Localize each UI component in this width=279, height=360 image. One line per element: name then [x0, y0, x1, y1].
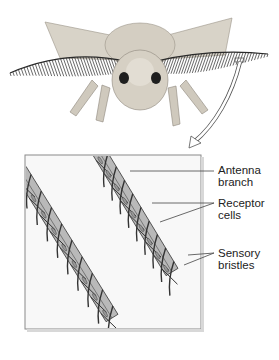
antenna-pinnule [27, 67, 30, 76]
antenna-pinnule [55, 60, 61, 77]
antenna-pinnule [75, 57, 82, 76]
antenna-pinnule [89, 57, 96, 76]
antenna-pinnule [176, 56, 182, 74]
antenna-pinnule [251, 53, 254, 61]
right-leg-outer [180, 80, 208, 114]
antenna-pinnule [83, 57, 90, 76]
antenna-pinnule [91, 57, 97, 75]
right-eye [151, 72, 161, 84]
antenna-pinnule [248, 53, 251, 62]
antenna-pinnule [16, 71, 18, 76]
antenna-pinnule [97, 57, 103, 75]
antenna-pinnule [230, 52, 235, 66]
label-line: Sensory [218, 247, 260, 259]
antenna-pinnule [106, 58, 112, 74]
antenna-pinnule [52, 60, 58, 76]
antenna-pinnule [264, 54, 265, 58]
antenna-pinnule [227, 52, 232, 67]
antenna-pinnule [58, 59, 64, 76]
antenna-pinnule [18, 70, 20, 76]
antenna-pinnule [30, 66, 33, 76]
antenna-pinnule [21, 69, 23, 76]
antenna-pinnule [80, 57, 87, 76]
antenna-pinnule [10, 73, 11, 76]
label-receptor-cells: Receptor cells [218, 197, 265, 221]
antenna-pinnule [258, 53, 260, 59]
antenna-pinnule [86, 57, 93, 76]
antenna-pinnule [261, 53, 263, 58]
label-line: branch [218, 176, 261, 188]
antenna-pinnule [94, 57, 100, 75]
antenna-pinnule [13, 72, 14, 76]
antenna-pinnule [171, 57, 177, 74]
magnified-panel [14, 146, 204, 340]
antenna-pinnule [24, 68, 27, 76]
antenna-pinnule [254, 53, 256, 60]
label-sensory-bristles: Sensory bristles [218, 247, 260, 271]
antenna-pinnule [77, 57, 84, 76]
face-tuft [126, 58, 154, 86]
antenna-pinnule [66, 58, 72, 76]
label-line: Antenna [218, 164, 261, 176]
antenna-pinnule [44, 62, 49, 76]
label-line: Receptor [218, 197, 265, 209]
antenna-pinnule [69, 58, 75, 77]
antenna-pinnule [168, 57, 174, 73]
antenna-pinnule [100, 58, 106, 75]
moth-illustration [10, 18, 268, 126]
right-leg-inner [168, 86, 180, 126]
left-leg-inner [96, 85, 110, 122]
antenna-pinnule [245, 53, 248, 63]
antenna-pinnule [72, 58, 79, 77]
antenna-pinnule [61, 59, 67, 77]
antenna-pinnule [103, 58, 109, 75]
label-antenna-branch: Antenna branch [218, 164, 261, 188]
antenna-pinnule [174, 56, 180, 73]
left-leg-outer [70, 80, 98, 116]
left-eye [119, 72, 129, 84]
antenna-pinnule [49, 61, 54, 76]
label-line: cells [218, 209, 265, 221]
label-line: bristles [218, 259, 260, 271]
antenna-pinnule [63, 58, 69, 76]
antenna-pinnule [47, 61, 52, 76]
antenna-pinnule [32, 65, 36, 76]
